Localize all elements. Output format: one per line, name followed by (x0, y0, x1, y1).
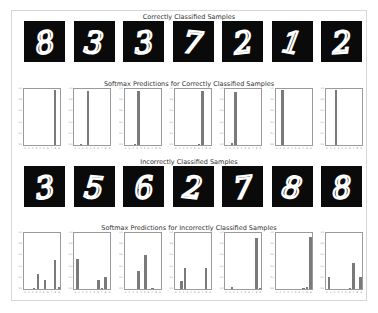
y-tick-label: 0.2 (215, 276, 223, 279)
softmax-bar (281, 90, 283, 145)
y-tick-label: 0.8 (266, 242, 274, 245)
y-tick-label: 0.8 (14, 242, 22, 245)
y-tick-label: 0.6 (266, 109, 274, 112)
x-tick-labels: 0123456789 (325, 291, 363, 294)
softmax-bar (44, 280, 46, 289)
plot-axes (73, 88, 111, 146)
svg-text:5: 5 (83, 169, 105, 205)
y-tick-label: 0.2 (266, 276, 274, 279)
y-tick-label: 0.0 (165, 287, 173, 290)
softmax-bar (137, 91, 139, 145)
y-tick-label: 0.0 (14, 143, 22, 146)
softmax-bar (328, 277, 330, 289)
y-tick-label: 1.0 (115, 231, 123, 234)
softmax-bar (349, 288, 351, 289)
svg-text:2: 2 (181, 169, 205, 205)
y-tick-label: 0.2 (64, 276, 72, 279)
correct-digit-image: 1 (272, 21, 313, 62)
y-tick-label: 0.2 (115, 132, 123, 135)
plot-axes (275, 88, 313, 146)
softmax-bar (180, 281, 182, 289)
y-tick-label: 0.8 (215, 242, 223, 245)
softmax-bar (201, 91, 203, 145)
correct-digits-row: 8337212 (24, 21, 362, 62)
y-tick-label: 0.0 (266, 143, 274, 146)
y-tick-label: 0.2 (165, 132, 173, 135)
svg-text:1: 1 (279, 24, 304, 60)
correct-softmax-plot: 1.00.80.60.40.20.00123456789 (316, 88, 364, 154)
plot-axes (224, 88, 262, 146)
svg-text:8: 8 (33, 24, 57, 60)
y-tick-label: 0.6 (215, 109, 223, 112)
y-tick-label: 0.6 (316, 253, 324, 256)
softmax-bar (97, 280, 99, 289)
y-tick-label: 0.6 (215, 253, 223, 256)
softmax-bar (198, 144, 200, 145)
plot-axes (275, 232, 313, 290)
plot-axes (174, 232, 212, 290)
incorrect-digit-image: 2 (173, 166, 214, 207)
softmax-bar (234, 92, 236, 145)
y-tick-label: 0.2 (115, 276, 123, 279)
y-tick-label: 1.0 (14, 231, 22, 234)
y-tick-label: 0.6 (14, 253, 22, 256)
y-tick-label: 1.0 (266, 231, 274, 234)
y-tick-label: 0.8 (115, 242, 123, 245)
softmax-bar (58, 287, 60, 289)
x-tick-labels: 0123456789 (224, 147, 262, 150)
y-tick-label: 0.6 (316, 109, 324, 112)
y-tick-label: 0.4 (266, 121, 274, 124)
y-tick-label: 0.0 (266, 287, 274, 290)
x-tick-labels: 0123456789 (124, 147, 162, 150)
softmax-bar (137, 271, 139, 289)
softmax-bar (359, 277, 361, 289)
y-tick-label: 0.8 (266, 98, 274, 101)
softmax-bar (205, 268, 207, 289)
y-tick-label: 1.0 (316, 231, 324, 234)
incorrect-softmax-plot: 1.00.80.60.40.20.00123456789 (14, 232, 62, 298)
softmax-bar (134, 144, 136, 145)
x-tick-labels: 0123456789 (73, 147, 111, 150)
y-tick-label: 0.6 (165, 109, 173, 112)
y-tick-label: 1.0 (115, 87, 123, 90)
correct-digit-image: 2 (222, 21, 263, 62)
y-tick-label: 0.8 (165, 98, 173, 101)
y-tick-label: 0.0 (316, 287, 324, 290)
y-tick-label: 0.4 (316, 265, 324, 268)
incorrect-softmax-plot: 1.00.80.60.40.20.00123456789 (215, 232, 263, 298)
softmax-bar (184, 268, 186, 289)
y-tick-label: 0.6 (14, 109, 22, 112)
y-tick-label: 0.0 (14, 287, 22, 290)
incorrect-digits-row: 3562788 (24, 166, 362, 207)
y-tick-label: 1.0 (64, 87, 72, 90)
y-tick-label: 0.2 (316, 276, 324, 279)
svg-text:3: 3 (33, 169, 57, 205)
y-tick-label: 0.4 (115, 265, 123, 268)
softmax-bar (54, 90, 56, 145)
softmax-bar (302, 288, 304, 289)
y-tick-label: 0.8 (165, 242, 173, 245)
softmax-bar (231, 143, 233, 145)
incorrect-softmax-plot: 1.00.80.60.40.20.00123456789 (165, 232, 213, 298)
x-tick-labels: 0123456789 (325, 147, 363, 150)
softmax-bar (309, 237, 311, 289)
incorrect-softmax-row: 1.00.80.60.40.20.001234567891.00.80.60.4… (14, 232, 364, 298)
y-tick-label: 0.2 (316, 132, 324, 135)
y-tick-label: 0.2 (266, 132, 274, 135)
correct-digit-image: 3 (123, 21, 164, 62)
y-tick-label: 0.4 (165, 121, 173, 124)
svg-text:7: 7 (231, 169, 255, 205)
correct-digit-image: 8 (24, 21, 65, 62)
y-tick-label: 0.8 (64, 242, 72, 245)
softmax-bar (352, 263, 354, 289)
y-tick-label: 0.0 (165, 143, 173, 146)
svg-text:3: 3 (133, 24, 154, 60)
softmax-bar (33, 288, 35, 289)
correct-softmax-plot: 1.00.80.60.40.20.00123456789 (165, 88, 213, 154)
incorrect-digit-image: 6 (123, 166, 164, 207)
correct-softmax-row: 1.00.80.60.40.20.001234567891.00.80.60.4… (14, 88, 364, 154)
plot-axes (224, 232, 262, 290)
correct-digit-image: 7 (173, 21, 214, 62)
y-tick-label: 0.2 (14, 276, 22, 279)
plot-axes (73, 232, 111, 290)
